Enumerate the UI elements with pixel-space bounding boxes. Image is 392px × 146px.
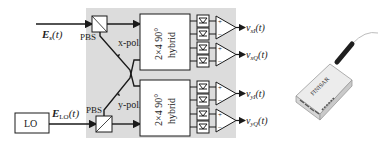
- svg-text:−: −: [218, 31, 222, 39]
- x-pol-label: x-pol.: [118, 37, 142, 48]
- hybrid-top: [140, 14, 190, 70]
- lo-label: LO: [24, 118, 37, 129]
- svg-text:+: +: [218, 84, 222, 92]
- coherent-receiver-diagram: Es(t) PBS LO ELO(t) PBS x-pol. y-pol. 2×…: [0, 0, 392, 146]
- svg-text:−: −: [218, 97, 222, 105]
- svg-text:−: −: [218, 58, 222, 66]
- output-yI: vyI(t): [246, 88, 266, 100]
- svg-text:+: +: [218, 18, 222, 26]
- svg-text:−: −: [218, 124, 222, 132]
- signal-input-label: Es(t): [41, 28, 63, 42]
- svg-text:2×4 90°: 2×4 90°: [153, 28, 164, 60]
- outputs: vxI(t) vxQ(t) vyI(t) vyQ(t): [236, 22, 268, 127]
- y-pol-label: y-pol.: [118, 99, 142, 110]
- pbs-bottom-label: PBS: [86, 105, 102, 115]
- svg-text:2×4 90°: 2×4 90°: [153, 94, 164, 126]
- output-yQ: vyQ(t): [246, 115, 268, 127]
- svg-text:hybrid: hybrid: [166, 98, 177, 124]
- pbs-top-label: PBS: [80, 32, 96, 42]
- output-xQ: vxQ(t): [246, 49, 268, 61]
- svg-text:hybrid: hybrid: [166, 32, 177, 58]
- svg-text:+: +: [218, 45, 222, 53]
- lo-field-label: ELO(t): [51, 107, 79, 121]
- svg-text:+: +: [218, 111, 222, 119]
- hybrid-bottom: [140, 80, 190, 136]
- output-xI: vxI(t): [246, 22, 266, 34]
- device-photo: FINISAR: [296, 32, 378, 120]
